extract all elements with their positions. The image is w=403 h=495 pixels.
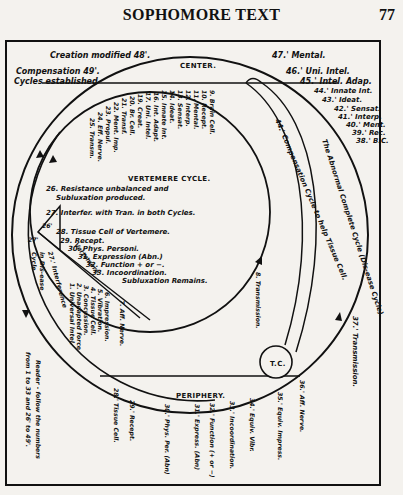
svg-text:19. Creat.: 19. Creat. <box>137 94 144 128</box>
svg-text:38.' B.C.: 38.' B.C. <box>356 137 389 145</box>
svg-text:43.' Ideat.: 43.' Ideat. <box>322 96 362 104</box>
svg-text:2. Unadapted force: 2. Unadapted force <box>75 283 83 350</box>
svg-text:13. Sensat.: 13. Sensat. <box>177 90 184 129</box>
svg-text:23. Propul.: 23. Propul. <box>104 106 112 144</box>
svg-text:16. Int. Adapt.: 16. Int. Adapt. <box>152 92 160 142</box>
transmission-8-label: 8. Transmission. <box>255 272 262 329</box>
svg-text:25. Transm.: 25. Transm. <box>89 118 96 159</box>
svg-text:35.' Equiv. Impress.: 35.' Equiv. Impress. <box>276 392 284 460</box>
svg-text:17. Uni. Intel.: 17. Uni. Intel. <box>145 92 152 140</box>
reader-note-line2: from 1 to 33 and 26' to 49'. <box>25 352 32 447</box>
chiropractic-cycle-diagram: T.C. Creation modified 48'. Compensation… <box>0 0 403 495</box>
note-compensation: Compensation 49'. <box>16 67 100 76</box>
center-arc-items: 9. Brain Cell. 10. Recept. 11. Mental. 1… <box>89 90 216 162</box>
label-26p: 26' <box>42 222 53 229</box>
compensation-cycle-label: 44.' Compensation Cycle to help Tissue C… <box>273 118 349 282</box>
diagram-frame <box>6 41 380 485</box>
svg-text:32.' Function (+ or −): 32.' Function (+ or −) <box>209 403 216 478</box>
arrow-icon <box>36 150 44 158</box>
right-top-items: 47.' Mental. 46.' Uni. Intel. 45.' Intel… <box>271 51 389 145</box>
periphery-label: PERIPHERY. <box>176 392 225 400</box>
svg-text:3. Concussion.: 3. Concussion. <box>83 285 90 336</box>
arrow-icon <box>22 310 30 318</box>
svg-text:20. Br. Cell.: 20. Br. Cell. <box>129 96 136 136</box>
svg-text:33. Incoordination.: 33. Incoordination. <box>92 269 167 277</box>
svg-text:40.' Ment.: 40.' Ment. <box>346 121 386 129</box>
svg-text:7. Aff. Nerve.: 7. Aff. Nerve. <box>119 300 126 346</box>
svg-text:39.' Rec.: 39.' Rec. <box>352 129 386 137</box>
svg-text:45.' Intel. Adap.: 45.' Intel. Adap. <box>299 77 372 86</box>
svg-text:24. Eff. Nerve.: 24. Eff. Nerve. <box>97 112 104 162</box>
transmission-37-label: 37.' Transmission. <box>351 316 359 387</box>
cycle-label: Cycle <box>30 252 38 271</box>
svg-text:46.' Uni. Intel.: 46.' Uni. Intel. <box>285 67 350 76</box>
svg-text:47.' Mental.: 47.' Mental. <box>271 51 326 60</box>
svg-text:21. Transf.: 21. Transf. <box>121 98 128 135</box>
svg-text:29.' Recept.: 29.' Recept. <box>128 400 136 441</box>
svg-text:44.' Innate Int.: 44.' Innate Int. <box>314 87 372 95</box>
svg-text:36.' Aff. Nerve.: 36.' Aff. Nerve. <box>299 380 306 432</box>
svg-text:27. Interfer. with Tran. in bo: 27. Interfer. with Tran. in both Cycles. <box>46 209 195 217</box>
svg-text:42.' Sensat.: 42.' Sensat. <box>334 105 381 113</box>
svg-text:28. Tissue Cell of Vertemere.: 28. Tissue Cell of Vertemere. <box>56 228 170 236</box>
svg-text:10. Recept.: 10. Recept. <box>200 90 208 129</box>
svg-text:14. Ideat.: 14. Ideat. <box>169 90 176 124</box>
note-cycles: Cycles established <box>14 77 98 86</box>
vertemere-items: 26. Resistance unbalanced and Subluxatio… <box>46 185 208 285</box>
svg-text:9. Brain Cell.: 9. Brain Cell. <box>209 90 216 135</box>
svg-text:15. Innate Int.: 15. Innate Int. <box>161 90 168 140</box>
svg-text:6. Impression.: 6. Impression. <box>103 292 111 342</box>
svg-text:22. Ment. Imp.: 22. Ment. Imp. <box>112 102 120 153</box>
svg-text:41.' Interp.: 41.' Interp. <box>338 113 382 121</box>
vertemere-cycle-label: VERTEMERE CYCLE. <box>128 175 211 183</box>
note-creation: Creation modified 48'. <box>50 51 150 60</box>
arrow-icon <box>335 312 342 321</box>
svg-text:Subluxation Remains.: Subluxation Remains. <box>122 277 208 285</box>
arrow-icon <box>49 155 57 163</box>
svg-text:28.' Tissue Cell.: 28.' Tissue Cell. <box>113 388 120 443</box>
reader-note-line1: Reader - follow the numbers <box>35 360 42 459</box>
svg-text:29. Recept.: 29. Recept. <box>60 237 105 245</box>
svg-text:12. Interp.: 12. Interp. <box>184 90 192 127</box>
svg-text:26. Resistance unbalanced and: 26. Resistance unbalanced and <box>46 185 170 193</box>
in-disease-label: in Dis-ease <box>39 252 46 290</box>
svg-text:11. Mental.: 11. Mental. <box>193 90 200 129</box>
svg-text:34.' Equiv. Vibr.: 34.' Equiv. Vibr. <box>248 398 256 452</box>
svg-text:4. Tissue Cell.: 4. Tissue Cell. <box>90 287 97 336</box>
svg-text:31.' Express. (Abn): 31.' Express. (Abn) <box>193 404 201 470</box>
svg-text:5. Vibration.: 5. Vibration. <box>97 289 104 332</box>
tissue-cell-label: T.C. <box>270 360 286 368</box>
svg-text:Subluxation produced.: Subluxation produced. <box>56 194 145 202</box>
label-27p: 27' <box>28 236 39 243</box>
lower-left-items: 1. Universal Intel. 2. Unadapted force 3… <box>69 283 126 350</box>
svg-text:30.' Phys. Per. (Abn): 30.' Phys. Per. (Abn) <box>163 404 171 475</box>
center-label: CENTER. <box>180 62 216 70</box>
svg-text:1. Universal Intel.: 1. Universal Intel. <box>69 283 76 345</box>
svg-text:33.' Incoordination.: 33.' Incoordination. <box>229 401 236 469</box>
